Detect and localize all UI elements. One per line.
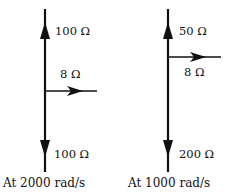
arrow-up-icon [163,22,173,39]
right-up-label: 50 Ω [179,26,207,38]
right-down-label: 200 Ω [179,149,214,161]
arrow-down-icon [40,140,50,157]
left-right-label: 8 Ω [60,69,81,81]
right-right-label: 8 Ω [184,67,205,79]
arrow-up-icon [40,22,50,39]
arrow-down-icon [163,140,173,157]
right-caption: At 1000 rad/s [128,177,210,189]
left-caption: At 2000 rad/s [3,177,85,189]
left-down-label: 100 Ω [54,149,89,161]
left-up-label: 100 Ω [55,26,90,38]
